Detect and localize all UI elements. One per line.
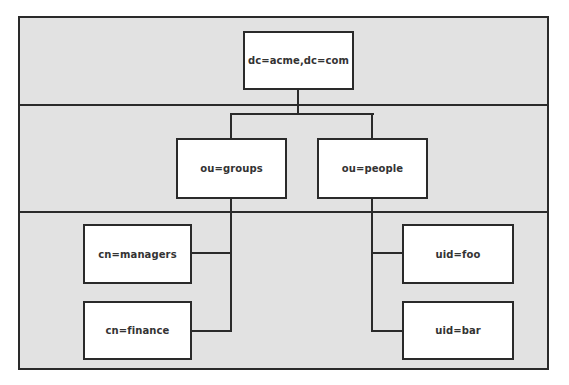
connector-people-trunk [371,197,373,332]
node-ou-groups: ou=groups [176,138,287,199]
node-uid-bar: uid=bar [402,301,514,360]
node-uid-foo: uid=foo [402,224,514,284]
node-cn-managers: cn=managers [83,224,192,284]
connector-to-managers [190,252,232,254]
connector-to-people [371,113,373,140]
connector-to-foo [371,252,403,254]
node-root: dc=acme,dc=com [243,31,354,90]
node-cn-finance: cn=finance [83,301,192,360]
connector-to-finance [190,330,232,332]
connector-to-bar [371,330,403,332]
connector-ou-bar [230,113,374,115]
connector-groups-trunk [230,197,232,332]
node-ou-people: ou=people [317,138,428,199]
connector-root-down [297,88,299,115]
connector-to-groups [230,113,232,139]
